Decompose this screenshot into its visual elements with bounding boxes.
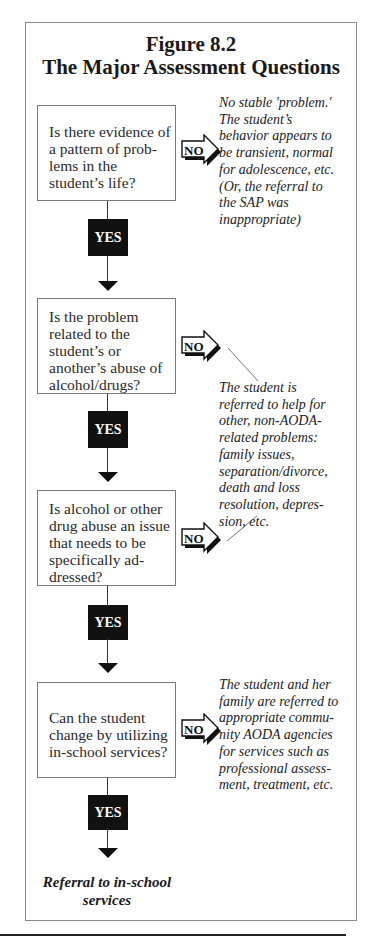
yes-box-3: YES	[88, 605, 128, 640]
down-arrow-icon	[98, 663, 118, 673]
no-label-1: NO	[181, 134, 223, 168]
connector-line	[107, 201, 108, 219]
question-text-2: Is the problem related to the student’s …	[49, 308, 171, 393]
bottom-rule	[0, 934, 346, 936]
no-label-3: NO	[181, 522, 223, 556]
question-text-1: Is there evidence of a pattern of prob- …	[49, 123, 171, 191]
connector-line	[107, 828, 108, 849]
no-label-2: NO	[181, 330, 223, 364]
outcome-text-3: The student and her family are referred …	[219, 677, 357, 794]
connector-line	[107, 394, 108, 411]
connector-line	[107, 448, 108, 473]
question-box-4: Can the student change by utilizing in-s…	[37, 682, 176, 778]
question-text-3: Is alcohol or other drug abuse an issue …	[49, 500, 171, 585]
outcome-text-1: No stable 'problem.' The student’s behav…	[219, 95, 357, 229]
figure-number: Figure 8.2	[25, 33, 357, 56]
down-arrow-icon	[98, 281, 118, 291]
final-outcome: Referral to in-school services	[37, 873, 177, 909]
question-box-2: Is the problem related to the student’s …	[37, 298, 176, 394]
connector-line	[107, 256, 108, 282]
down-arrow-icon	[98, 848, 118, 858]
connector-line	[107, 586, 108, 605]
yes-box-4: YES	[88, 795, 128, 830]
outcome-text-2: The student is referred to help for othe…	[219, 380, 357, 530]
yes-box-2: YES	[88, 411, 128, 448]
down-arrow-icon	[98, 472, 118, 482]
question-text-4: Can the student change by utilizing in-s…	[49, 709, 171, 760]
yes-box-1: YES	[88, 219, 128, 256]
question-box-3: Is alcohol or other drug abuse an issue …	[37, 490, 176, 586]
connector-line	[107, 778, 108, 795]
figure-title: The Major Assessment Questions	[25, 56, 357, 79]
no-label-4: NO	[181, 713, 223, 747]
connector-line	[107, 638, 108, 664]
figure-heading: Figure 8.2 The Major Assessment Question…	[25, 33, 357, 79]
question-box-1: Is there evidence of a pattern of prob- …	[37, 105, 176, 201]
